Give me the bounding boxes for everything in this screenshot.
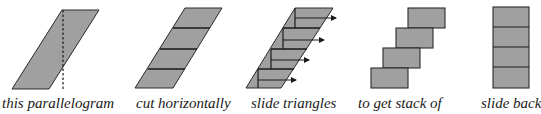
step5-stacked-rectangle [493, 7, 529, 88]
label-step1: this parallelogram [2, 94, 114, 112]
label-step2: cut horizontally [136, 94, 231, 112]
step2-cut-parallelogram [135, 8, 222, 88]
step1-parallelogram [12, 10, 99, 89]
step4-staircase-rectangles [371, 8, 445, 88]
label-step5: slide back [481, 94, 541, 112]
label-step4: to get stack of [358, 94, 442, 112]
step3-slide-triangles [246, 8, 336, 88]
label-step3: slide triangles [251, 94, 336, 112]
